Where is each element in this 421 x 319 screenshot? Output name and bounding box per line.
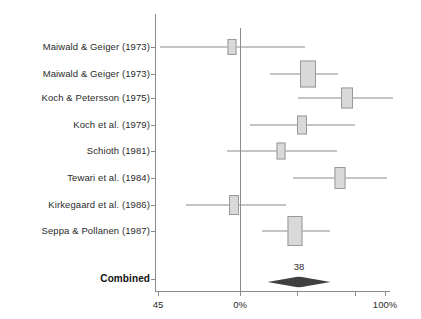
effect-size-box — [288, 216, 303, 246]
y-axis-tick — [151, 178, 156, 179]
y-axis-tick — [151, 74, 156, 75]
y-axis-line — [155, 14, 156, 291]
effect-size-box — [335, 167, 346, 189]
effect-size-box — [229, 195, 239, 215]
forest-plot-figure: Maiwald & Geiger (1973) Maiwald & Geiger… — [0, 0, 421, 319]
y-axis-tick — [151, 205, 156, 206]
effect-size-box — [297, 116, 307, 135]
x-axis-tick — [385, 291, 386, 296]
x-axis-tick — [355, 291, 356, 296]
plot-area: 450%100%38 — [0, 0, 421, 319]
combined-value-label: 38 — [294, 261, 305, 272]
y-axis-tick — [151, 151, 156, 152]
zero-reference-line — [240, 28, 241, 291]
y-axis-tick — [151, 98, 156, 99]
effect-size-box — [300, 61, 316, 88]
y-axis-tick — [151, 125, 156, 126]
y-axis-tick — [151, 231, 156, 232]
x-axis-tick — [297, 291, 298, 296]
x-axis-tick-label: 45 — [153, 299, 164, 310]
x-axis-tick — [158, 291, 159, 296]
effect-size-box — [341, 88, 353, 109]
x-axis-tick — [240, 291, 241, 296]
effect-size-box — [228, 39, 237, 55]
x-axis-tick-label: 100% — [373, 299, 397, 310]
effect-size-box — [277, 143, 286, 160]
y-axis-tick — [151, 279, 156, 280]
combined-diamond — [268, 274, 331, 285]
x-axis-tick-label: 0% — [233, 299, 247, 310]
y-axis-tick — [151, 47, 156, 48]
